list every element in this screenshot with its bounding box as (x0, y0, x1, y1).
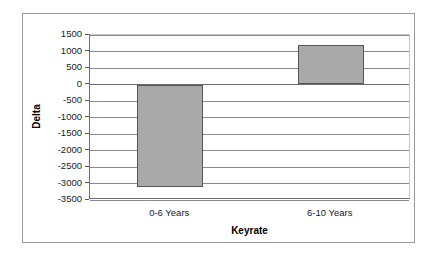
x-axis-title: Keyrate (89, 225, 410, 236)
chart-figure: Delta Keyrate 150010005000-500-1000-1500… (0, 0, 436, 263)
y-tick-mark (85, 133, 89, 134)
bar-0-6-years (137, 85, 203, 187)
bar-6-10-years (298, 45, 364, 85)
y-tick-label: -500 (23, 95, 82, 105)
y-tick-label: -3500 (23, 194, 82, 204)
y-tick-mark (85, 182, 89, 183)
y-tick-label: 500 (23, 62, 82, 72)
y-tick-mark (85, 100, 89, 101)
y-tick-label: 0 (23, 79, 82, 89)
y-tick-mark (85, 149, 89, 150)
y-tick-mark (85, 50, 89, 51)
x-tick-label: 6-10 Years (280, 207, 380, 218)
y-tick-label: -1000 (23, 112, 82, 122)
y-tick-label: 1500 (23, 29, 82, 39)
y-tick-label: -2500 (23, 161, 82, 171)
gridline (90, 200, 409, 201)
plot-area (89, 34, 410, 199)
y-tick-mark (85, 34, 89, 35)
y-tick-label: 1000 (23, 46, 82, 56)
y-tick-mark (85, 116, 89, 117)
y-tick-mark (85, 199, 89, 200)
gridline (90, 35, 409, 36)
chart-panel: Delta Keyrate 150010005000-500-1000-1500… (22, 13, 415, 243)
y-tick-label: -3000 (23, 178, 82, 188)
y-tick-mark (85, 83, 89, 84)
y-tick-label: -2000 (23, 145, 82, 155)
y-tick-mark (85, 67, 89, 68)
x-tick-label: 0-6 Years (119, 207, 219, 218)
y-tick-label: -1500 (23, 128, 82, 138)
y-tick-mark (85, 166, 89, 167)
